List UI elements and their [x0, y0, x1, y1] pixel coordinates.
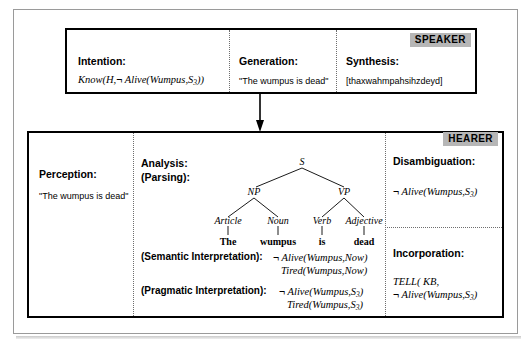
- tree-node-s: S: [300, 156, 305, 167]
- speaker-box: SPEAKER Intention: Know(H,¬ Alive(Wumpus…: [65, 28, 477, 94]
- tree-node-verb: Verb: [313, 215, 331, 226]
- incorporation-line2: ¬ Alive(Wumpus,S3): [393, 288, 477, 304]
- synthesis-value: [thaxwahmpahsihzdeyd]: [346, 75, 443, 87]
- intention-value: Know(H,¬ Alive(Wumpus,S3)): [78, 73, 204, 89]
- tree-node-np: NP: [248, 186, 261, 197]
- frame-shadow: [16, 336, 521, 339]
- synthesis-header: Synthesis:: [346, 55, 399, 67]
- perception-value: "The wumpus is dead": [39, 190, 128, 202]
- speaker-badge: SPEAKER: [410, 33, 471, 47]
- semantic-interpretation-line2: Tired(Wumpus,Now): [281, 264, 367, 277]
- analysis-header-line2: (Parsing):: [141, 171, 190, 183]
- speaker-to-hearer-arrow: [253, 94, 267, 132]
- hearer-divider-1: [133, 133, 134, 316]
- tree-leaf-wumpus: wumpus: [260, 236, 296, 247]
- tree-node-vp: VP: [338, 186, 350, 197]
- generation-header: Generation:: [239, 55, 298, 67]
- hearer-divider-3: [385, 227, 502, 228]
- speaker-divider-1: [229, 30, 230, 92]
- incorporation-line1: TELL( KB,: [393, 275, 439, 288]
- parse-tree: S NP VP Article Noun Verb Adjective The …: [216, 156, 386, 254]
- generation-value: "The wumpus is dead": [239, 75, 328, 87]
- disambiguation-header: Disambiguation:: [393, 155, 475, 167]
- figure-canvas: SPEAKER Intention: Know(H,¬ Alive(Wumpus…: [0, 0, 532, 351]
- tree-node-noun: Noun: [267, 215, 289, 226]
- tree-node-article: Article: [214, 215, 241, 226]
- tree-leaf-the: The: [220, 236, 237, 247]
- tree-leaf-is: is: [319, 236, 326, 247]
- analysis-header-line1: Analysis:: [141, 157, 188, 169]
- tree-node-adjective: Adjective: [345, 215, 382, 226]
- intention-header: Intention:: [78, 55, 126, 67]
- pragmatic-interpretation-label: (Pragmatic Interpretation):: [141, 285, 267, 297]
- hearer-badge: HEARER: [443, 132, 498, 146]
- incorporation-header: Incorporation:: [393, 247, 464, 259]
- speaker-divider-2: [336, 30, 337, 92]
- disambiguation-value: ¬ Alive(Wumpus,S3): [393, 185, 477, 201]
- tree-leaf-dead: dead: [354, 236, 375, 247]
- perception-header: Perception:: [39, 168, 97, 180]
- pragmatic-interpretation-line2: Tired(Wumpus,S3): [287, 298, 363, 314]
